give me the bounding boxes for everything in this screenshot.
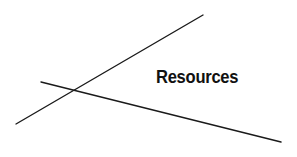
diagram-canvas: Resources: [0, 0, 297, 157]
diagonal-line-falling: [41, 82, 281, 142]
lines-layer: [0, 0, 297, 157]
resources-label: Resources: [156, 67, 238, 88]
